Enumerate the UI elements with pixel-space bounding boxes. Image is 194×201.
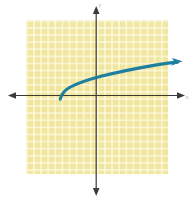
graph-figure: x y <box>0 0 194 201</box>
x-axis-right-arrowhead-icon <box>177 92 185 99</box>
coordinate-plane-svg: x y <box>0 0 194 201</box>
x-axis-left-arrowhead-icon <box>8 92 16 99</box>
grid-panel <box>26 20 168 174</box>
grid-sheen-overlay <box>26 20 168 174</box>
y-axis-label: y <box>97 1 102 9</box>
y-axis-bottom-arrowhead-icon <box>93 188 100 196</box>
x-axis-label: x <box>184 93 189 101</box>
